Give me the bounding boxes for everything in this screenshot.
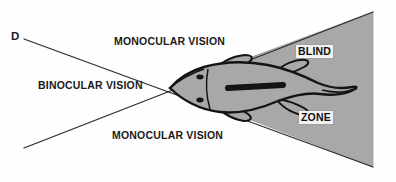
label-point-d: D	[11, 31, 20, 43]
diagram-canvas	[0, 0, 396, 182]
label-blind: BLIND	[296, 45, 333, 58]
label-binocular-vision: BINOCULAR VISION	[38, 80, 143, 91]
label-monocular-vision-bottom: MONOCULAR VISION	[112, 130, 223, 141]
fish-visual-field-diagram: D MONOCULAR VISION BINOCULAR VISION MONO…	[0, 0, 396, 182]
fish-eye-lower	[196, 98, 203, 103]
fish-eye-upper	[196, 75, 203, 80]
label-zone: ZONE	[299, 111, 333, 124]
label-monocular-vision-top: MONOCULAR VISION	[114, 36, 225, 47]
fish-dorsal-stripe	[228, 85, 283, 88]
